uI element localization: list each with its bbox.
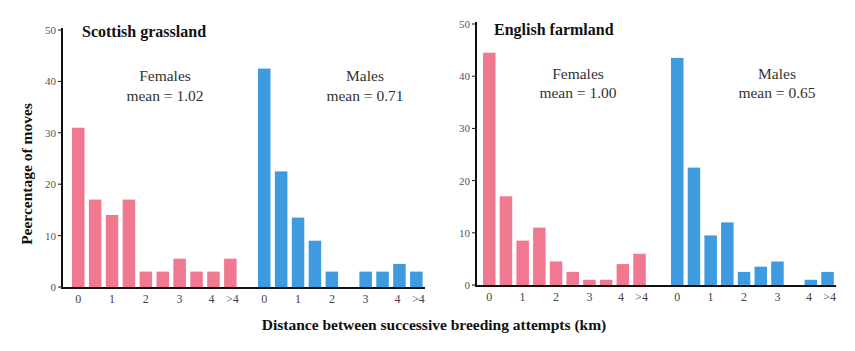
x-tick-label: 1 (520, 290, 526, 304)
male-bar (275, 171, 288, 287)
male-bar (326, 272, 339, 287)
female-bar (89, 200, 102, 287)
male-bar (410, 272, 423, 287)
x-tick-label: 4 (394, 292, 400, 306)
females-mean: mean = 1.00 (539, 84, 616, 101)
male-bar (309, 241, 322, 287)
female-bar (550, 262, 563, 286)
female-bar (106, 215, 119, 287)
x-tick-label: 0 (674, 290, 680, 304)
females-label: Females (552, 65, 604, 82)
x-tick-label: 0 (486, 290, 492, 304)
male-bar (688, 168, 701, 285)
males-label: Males (758, 65, 796, 82)
male-bar (821, 272, 834, 285)
x-tick-label: 3 (363, 292, 369, 306)
x-tick-label: 2 (553, 290, 559, 304)
female-bar (633, 254, 646, 285)
male-bar (359, 272, 372, 287)
x-tick-label: >4 (412, 292, 425, 306)
y-tick-label: 40 (459, 70, 471, 82)
male-bar (258, 69, 271, 287)
male-bar (376, 272, 389, 287)
male-bar (292, 218, 305, 287)
x-tick-label: 1 (295, 292, 301, 306)
x-tick-label: 0 (75, 292, 81, 306)
y-tick-label: 20 (459, 175, 471, 187)
x-tick-label: 2 (741, 290, 747, 304)
x-tick-label: 1 (109, 292, 115, 306)
x-tick-label: 3 (177, 292, 183, 306)
x-tick-label: 1 (708, 290, 714, 304)
breeding-dispersal-chart: Peercentage of moves Distance between su… (0, 0, 855, 351)
male-bar (393, 264, 406, 287)
male-bar (755, 267, 768, 285)
y-tick-label: 0 (51, 281, 57, 293)
x-tick-label: 3 (775, 290, 781, 304)
y-tick-label: 30 (459, 122, 471, 134)
female-bar (173, 259, 186, 287)
x-tick-label: >4 (823, 290, 836, 304)
x-tick-label: >4 (226, 292, 239, 306)
x-axis-title: Distance between successive breeding att… (262, 316, 607, 334)
male-bar (771, 262, 784, 286)
female-bar (224, 259, 237, 287)
male-bar (671, 58, 684, 285)
female-bar (72, 128, 85, 287)
female-bar (516, 241, 529, 285)
female-bar (583, 280, 596, 285)
female-bar (157, 272, 170, 287)
y-axis-title: Peercentage of moves (18, 103, 35, 245)
females-mean: mean = 1.02 (126, 87, 203, 104)
x-tick-label: 4 (208, 292, 214, 306)
y-tick-label: 40 (45, 75, 57, 87)
males-mean: mean = 0.71 (326, 87, 403, 104)
x-tick-label: 4 (806, 290, 812, 304)
female-bar (483, 53, 496, 285)
axes-group: 01234>401234>401020304050 (459, 18, 836, 304)
male-bar (721, 222, 734, 285)
male-bar (704, 235, 717, 285)
x-tick-label: 2 (329, 292, 335, 306)
panel-english-farmland: English farmland Females mean = 1.00 Mal… (459, 18, 836, 304)
y-tick-label: 20 (45, 178, 57, 190)
female-bar (533, 228, 546, 285)
y-tick-label: 30 (45, 127, 57, 139)
x-tick-label: 0 (261, 292, 267, 306)
y-tick-label: 50 (459, 18, 471, 30)
x-tick-label: >4 (635, 290, 648, 304)
female-bar (600, 280, 613, 285)
x-tick-label: 2 (143, 292, 149, 306)
panel-title: Scottish grassland (82, 23, 206, 41)
female-bar (617, 264, 630, 285)
female-bar (190, 272, 203, 287)
females-label: Females (139, 67, 191, 84)
males-mean: mean = 0.65 (738, 84, 815, 101)
male-bar (805, 280, 818, 285)
female-bar (567, 272, 580, 285)
y-tick-label: 0 (465, 279, 471, 291)
female-bar (500, 196, 513, 285)
female-bar (207, 272, 220, 287)
males-label: Males (346, 67, 384, 84)
x-tick-label: 3 (587, 290, 593, 304)
y-tick-label: 50 (45, 24, 57, 36)
male-bar (738, 272, 751, 285)
y-tick-label: 10 (45, 230, 57, 242)
female-bar (123, 200, 136, 287)
panel-scottish-grassland: Scottish grassland Females mean = 1.02 M… (45, 23, 425, 306)
y-tick-label: 10 (459, 227, 471, 239)
panel-title: English farmland (494, 21, 614, 39)
x-tick-label: 4 (618, 290, 624, 304)
female-bar (140, 272, 153, 287)
